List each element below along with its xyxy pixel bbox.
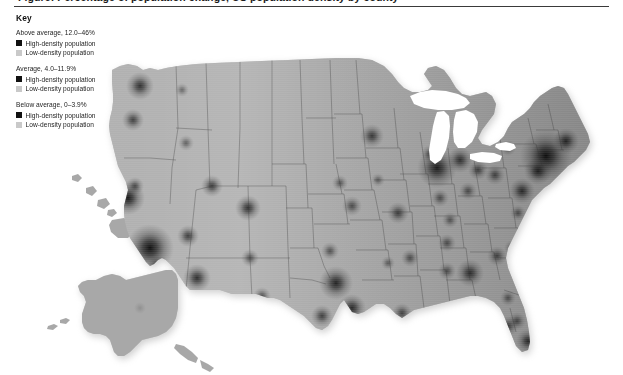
- legend-label-low-density-below-average: Low-density population: [26, 120, 95, 129]
- figure-title-strip: Figure: Percentage of population change,…: [0, 0, 623, 5]
- legend-group-label-above-average: Above average, 12.0–46%: [16, 28, 124, 38]
- swatch-high-density-average: [16, 76, 22, 82]
- legend-group-above-average: Above average, 12.0–46% High-density pop…: [16, 28, 124, 57]
- legend-heading: Key: [16, 13, 124, 24]
- title-divider: [14, 6, 609, 7]
- legend-label-high-density-above-average: High-density population: [26, 39, 96, 48]
- legend-label-low-density-above-average: Low-density population: [26, 48, 95, 57]
- legend-row-low-density-average[interactable]: Low-density population: [16, 84, 124, 93]
- legend-row-low-density-above-average[interactable]: Low-density population: [16, 48, 124, 57]
- legend-row-high-density-average[interactable]: High-density population: [16, 75, 124, 84]
- map-legend: Key Above average, 12.0–46% High-density…: [16, 13, 124, 130]
- swatch-high-density-below-average: [16, 112, 22, 118]
- population-density-map-figure: Figure: Percentage of population change,…: [0, 0, 623, 375]
- legend-row-high-density-above-average[interactable]: High-density population: [16, 39, 124, 48]
- legend-group-label-average: Average, 4.0–11.9%: [16, 64, 124, 74]
- swatch-low-density-average: [16, 86, 22, 92]
- legend-group-average: Average, 4.0–11.9% High-density populati…: [16, 64, 124, 93]
- legend-row-low-density-below-average[interactable]: Low-density population: [16, 120, 124, 129]
- legend-label-high-density-below-average: High-density population: [26, 111, 96, 120]
- legend-label-high-density-average: High-density population: [26, 75, 96, 84]
- legend-row-high-density-below-average[interactable]: High-density population: [16, 111, 124, 120]
- swatch-low-density-below-average: [16, 122, 22, 128]
- legend-group-label-below-average: Below average, 0–3.9%: [16, 100, 124, 110]
- legend-group-below-average: Below average, 0–3.9% High-density popul…: [16, 100, 124, 129]
- page-title: Figure: Percentage of population change,…: [0, 0, 623, 4]
- legend-label-low-density-average: Low-density population: [26, 84, 95, 93]
- swatch-low-density-above-average: [16, 50, 22, 56]
- swatch-high-density-above-average: [16, 40, 22, 46]
